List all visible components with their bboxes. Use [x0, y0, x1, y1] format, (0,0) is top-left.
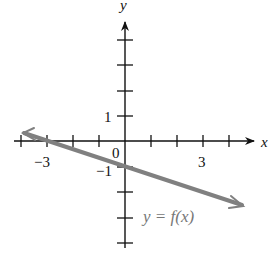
- y-tick-label-1: 1: [104, 109, 112, 125]
- y-axis-label: y: [118, 0, 127, 13]
- origin-label: 0: [112, 145, 120, 161]
- x-tick-label-3: 3: [198, 154, 206, 170]
- graph: y x 0 −3 3 1 −1 y = f(x): [0, 0, 280, 261]
- function-line: [23, 128, 243, 208]
- y-tick-label-neg1: −1: [96, 163, 112, 179]
- x-axis-label: x: [260, 134, 268, 150]
- x-tick-label-neg3: −3: [34, 154, 50, 170]
- function-label: y = f(x): [141, 207, 194, 226]
